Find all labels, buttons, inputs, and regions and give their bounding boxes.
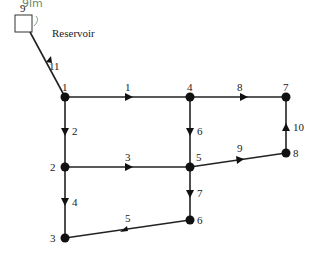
node-5: [186, 163, 195, 172]
arrow-pipe-5: [120, 226, 128, 232]
pipe-11: [30, 32, 65, 97]
arrow-pipe-6: [186, 128, 194, 136]
node-6: [186, 216, 195, 225]
node-label-1: 1: [62, 81, 68, 93]
pipe-label-1: 1: [125, 81, 131, 93]
annotation-bracket: [34, 16, 38, 26]
node-label-5: 5: [196, 151, 202, 163]
pipe-label-5: 5: [125, 212, 131, 224]
node-4: [186, 93, 195, 102]
node-label-6: 6: [197, 214, 203, 226]
arrow-pipe-10: [282, 123, 290, 131]
pipe-label-8: 8: [237, 81, 243, 93]
node-1: [61, 93, 70, 102]
arrow-pipe-1: [125, 93, 133, 101]
pipe-label-6: 6: [197, 125, 203, 137]
pipe-label-2: 2: [72, 125, 78, 137]
head-annotation: 9lm: [22, 0, 43, 10]
node-3: [61, 234, 70, 243]
flow-arrows: [46, 56, 290, 232]
pipe-label-7: 7: [197, 187, 203, 199]
arrow-pipe-4: [61, 198, 69, 206]
arrow-pipe-2: [61, 128, 69, 136]
arrow-pipe-7: [186, 190, 194, 198]
pipe-label-11: 11: [49, 60, 60, 72]
node-label-8: 8: [293, 147, 299, 159]
node-label-4: 4: [187, 81, 193, 93]
arrow-pipe-8: [240, 93, 248, 101]
pipe-label-3: 3: [125, 151, 131, 163]
reservoir-label: Reservoir: [52, 27, 95, 39]
node-7: [282, 93, 291, 102]
reservoir-box: [15, 15, 32, 32]
pipe-network-diagram: 9 Reservoir 9lm: [0, 0, 316, 257]
pipe-label-4: 4: [72, 196, 78, 208]
node-8: [282, 149, 291, 158]
pipe-label-9: 9: [237, 142, 243, 154]
pipe-label-10: 10: [293, 121, 305, 133]
node-label-3: 3: [50, 232, 56, 244]
node-label-2: 2: [50, 161, 56, 173]
node-label-7: 7: [283, 81, 289, 93]
node-2: [61, 163, 70, 172]
arrow-pipe-3: [125, 163, 133, 171]
